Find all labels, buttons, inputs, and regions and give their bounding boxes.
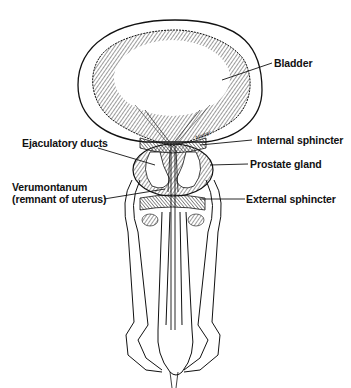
label-verumontanum-note: (remnant of uterus) [12, 193, 106, 205]
penile-corpora [125, 180, 221, 388]
external-sphincter-shape [140, 195, 205, 226]
label-external-sphincter: External sphincter [246, 193, 336, 205]
label-internal-sphincter: Internal sphincter [257, 134, 343, 146]
label-bladder: Bladder [274, 57, 312, 69]
label-ejaculatory-ducts: Ejaculatory ducts [22, 137, 108, 149]
prostate-gland-shape [133, 144, 213, 196]
label-prostate-gland: Prostate gland [250, 158, 322, 170]
label-verumontanum: Verumontanum [12, 181, 87, 193]
